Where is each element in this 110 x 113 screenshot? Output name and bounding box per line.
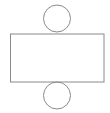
lateral-surface-rectangle [11,34,105,82]
top-circle-face [44,5,71,32]
cylinder-net-diagram [0,0,110,113]
bottom-circle-face [44,82,71,109]
